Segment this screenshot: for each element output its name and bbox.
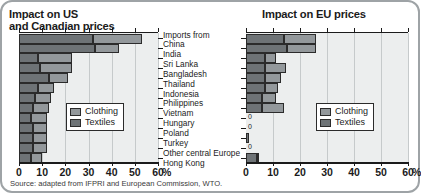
x-axis-tick-label: 20 — [53, 166, 77, 178]
row-tick — [241, 98, 246, 99]
x-axis-tick-top — [19, 28, 20, 32]
x-axis-tick-label: 40 — [100, 166, 124, 178]
row-tick — [241, 48, 246, 49]
row-tick — [158, 138, 163, 139]
row-tick — [241, 68, 246, 69]
x-axis-tick-label: 50 — [123, 166, 147, 178]
row-tick — [241, 38, 246, 39]
row-tick — [241, 128, 246, 129]
row-tick — [158, 58, 163, 59]
x-axis-tick-top — [135, 28, 136, 32]
x-axis-tick-top — [354, 28, 355, 32]
row-tick — [158, 128, 163, 129]
x-axis-tick-top — [300, 28, 301, 32]
x-axis-tick-top — [327, 28, 328, 32]
x-axis-tick-top — [246, 28, 247, 32]
x-axis-tick-top — [381, 28, 382, 32]
x-axis-tick-top — [89, 28, 90, 32]
x-axis-tick-label: 0 — [234, 166, 258, 178]
row-tick — [241, 138, 246, 139]
x-axis-tick-label: 40 — [342, 166, 366, 178]
row-tick — [158, 118, 163, 119]
x-axis-tick-label: 10 — [261, 166, 285, 178]
row-tick — [158, 98, 163, 99]
row-tick — [241, 148, 246, 149]
row-tick — [158, 148, 163, 149]
x-axis-tick-top — [158, 28, 159, 32]
x-axis-tick-top — [65, 28, 66, 32]
row-tick — [158, 68, 163, 69]
row-tick — [158, 158, 163, 159]
row-tick — [158, 38, 163, 39]
row-tick — [241, 118, 246, 119]
top-axis-line — [19, 32, 158, 34]
row-tick — [241, 158, 246, 159]
x-axis-tick-label: 10 — [30, 166, 54, 178]
top-axis-line — [246, 32, 408, 34]
x-axis-tick-top — [408, 28, 409, 32]
x-axis-unit-label: % — [162, 166, 171, 178]
x-axis-tick-label: 20 — [288, 166, 312, 178]
row-tick — [241, 108, 246, 109]
row-tick — [158, 48, 163, 49]
x-axis-tick-label: 50 — [369, 166, 393, 178]
x-axis-tick-top — [273, 28, 274, 32]
x-axis-tick-label: 30 — [77, 166, 101, 178]
row-tick — [158, 88, 163, 89]
x-axis-tick-top — [42, 28, 43, 32]
x-axis-unit-label: % — [412, 166, 421, 178]
x-axis-tick-top — [112, 28, 113, 32]
x-axis-tick-label: 30 — [315, 166, 339, 178]
row-tick — [241, 78, 246, 79]
row-tick — [158, 78, 163, 79]
row-tick — [158, 108, 163, 109]
x-axis-tick-label: 0 — [7, 166, 31, 178]
row-tick — [241, 88, 246, 89]
row-tick — [241, 58, 246, 59]
